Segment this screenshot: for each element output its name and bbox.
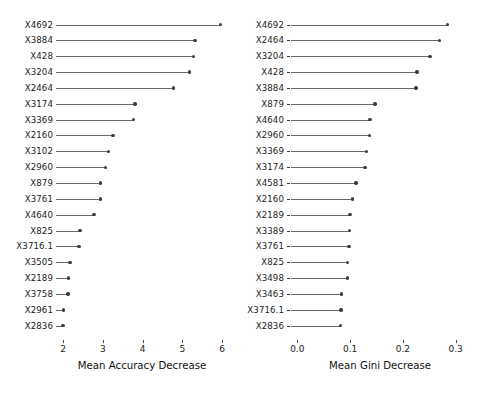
value-dot [415, 70, 418, 73]
value-dot [111, 134, 114, 137]
y-axis-tick-mark [287, 151, 290, 152]
value-line [291, 231, 349, 232]
value-line [56, 135, 113, 136]
x-axis-tick-label: 0.0 [290, 344, 304, 354]
variable-label: X3204 [238, 49, 284, 63]
value-dot [219, 23, 222, 26]
value-dot [104, 166, 107, 169]
variable-label: X3174 [238, 160, 284, 174]
value-line [56, 215, 94, 216]
variable-label: X2189 [0, 271, 53, 285]
variable-row: X3498 [238, 271, 480, 285]
variable-row: X428 [238, 65, 480, 79]
variable-label: X4640 [0, 208, 53, 222]
y-axis-tick-mark [287, 326, 290, 327]
variable-label: X825 [0, 224, 53, 238]
variable-row: X4581 [238, 176, 480, 190]
value-dot [339, 308, 342, 311]
variable-label: X825 [238, 255, 284, 269]
value-line [291, 215, 350, 216]
value-line [56, 88, 174, 89]
y-axis-tick-mark [287, 40, 290, 41]
value-line [56, 120, 133, 121]
variable-row: X2160 [238, 192, 480, 206]
variable-label: X2960 [238, 128, 284, 142]
value-line [56, 231, 80, 232]
value-dot [340, 292, 343, 295]
y-axis-tick-mark [287, 120, 290, 121]
value-line [291, 72, 417, 73]
value-dot [193, 39, 196, 42]
y-axis-tick-mark [287, 88, 290, 89]
value-dot [77, 245, 80, 248]
variable-importance-figure: X4692X3884X428X3204X2464X3174X3369X2160X… [0, 0, 480, 394]
x-axis-tick-label: 6 [219, 344, 225, 354]
variable-row: X2464 [0, 81, 238, 95]
value-line [291, 326, 341, 327]
variable-label: X3369 [0, 113, 53, 127]
variable-row: X2960 [238, 128, 480, 142]
variable-label: X3758 [0, 287, 53, 301]
x-axis-tick-label: 5 [179, 344, 185, 354]
variable-row: X3463 [238, 287, 480, 301]
variable-label: X4692 [238, 18, 284, 32]
variable-row: X2961 [0, 303, 238, 317]
value-dot [348, 213, 351, 216]
panel-mean-gini-decrease: X4692X2464X3204X428X3884X879X4640X2960X3… [238, 0, 480, 394]
value-line [56, 246, 79, 247]
y-axis-tick-mark [287, 278, 290, 279]
value-line [291, 294, 342, 295]
variable-label: X3204 [0, 65, 53, 79]
value-dot [354, 181, 357, 184]
x-axis-tick-mark [456, 340, 457, 343]
variable-row: X3369 [238, 144, 480, 158]
variable-row: X2189 [0, 271, 238, 285]
value-dot [188, 70, 191, 73]
value-line [291, 25, 448, 26]
variable-label: X3505 [0, 255, 53, 269]
panel-mean-accuracy-decrease: X4692X3884X428X3204X2464X3174X3369X2160X… [0, 0, 238, 394]
variable-label: X4640 [238, 113, 284, 127]
variable-label: X2836 [0, 319, 53, 333]
plot-area-accuracy: X4692X3884X428X3204X2464X3174X3369X2160X… [0, 0, 238, 394]
value-dot [365, 150, 368, 153]
variable-label: X3463 [238, 287, 284, 301]
variable-row: X4692 [238, 18, 480, 32]
y-axis-tick-mark [287, 294, 290, 295]
value-line [56, 40, 195, 41]
value-dot [192, 55, 195, 58]
value-dot [67, 276, 70, 279]
y-axis-tick-mark [287, 72, 290, 73]
y-axis-tick-mark [287, 310, 290, 311]
value-dot [348, 229, 351, 232]
y-axis-tick-mark [287, 199, 290, 200]
variable-row: X3884 [238, 81, 480, 95]
variable-row: X3761 [238, 239, 480, 253]
variable-label: X3884 [0, 33, 53, 47]
value-dot [66, 292, 69, 295]
y-axis-tick-mark [287, 25, 290, 26]
variable-label: X2464 [238, 33, 284, 47]
value-dot [132, 118, 135, 121]
value-line [291, 246, 349, 247]
value-line [291, 278, 347, 279]
x-axis-tick-label: 2 [60, 344, 66, 354]
variable-row: X3174 [238, 160, 480, 174]
value-dot [107, 150, 110, 153]
value-line [56, 183, 101, 184]
value-dot [414, 86, 417, 89]
value-dot [363, 166, 366, 169]
variable-row: X3758 [0, 287, 238, 301]
variable-label: X3761 [238, 239, 284, 253]
variable-row: X3761 [0, 192, 238, 206]
value-dot [438, 39, 441, 42]
variable-label: X3716.1 [238, 303, 284, 317]
value-dot [428, 55, 431, 58]
value-dot [346, 261, 349, 264]
variable-label: X2160 [238, 192, 284, 206]
value-line [291, 199, 352, 200]
value-line [291, 135, 370, 136]
variable-label: X2960 [0, 160, 53, 174]
variable-row: X3102 [0, 144, 238, 158]
variable-row: X3369 [0, 113, 238, 127]
